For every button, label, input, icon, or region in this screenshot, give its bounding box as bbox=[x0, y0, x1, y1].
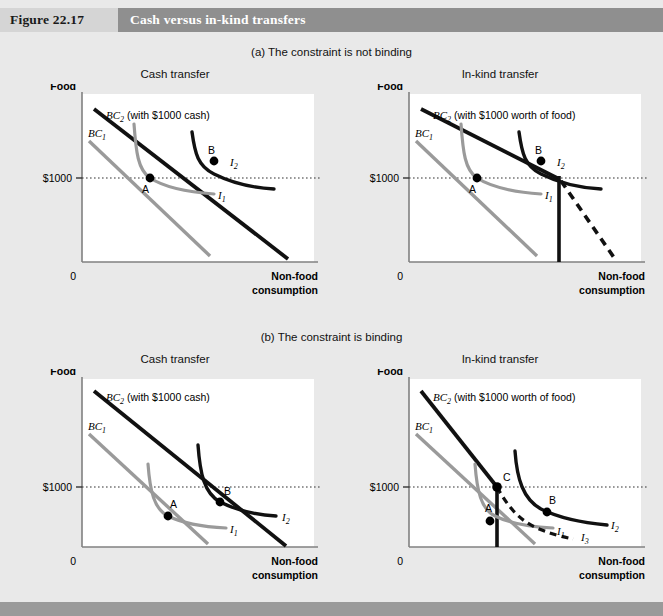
chart-a-cash-transfer: Food $1000 0 Non-food consumption BC1 BC… bbox=[18, 84, 330, 302]
x-axis-label-line2: consumption bbox=[252, 284, 318, 296]
figure-number: Figure 22.17 bbox=[0, 8, 118, 32]
point-b-label: B bbox=[549, 494, 556, 506]
point-b-marker bbox=[216, 498, 225, 507]
point-a-label: A bbox=[469, 183, 476, 195]
figure-footer-bar bbox=[0, 602, 663, 616]
point-b-marker bbox=[210, 157, 219, 166]
y-axis-label: Food bbox=[377, 84, 403, 92]
point-b-label: B bbox=[208, 144, 215, 156]
tick-label-1000: $1000 bbox=[370, 172, 399, 184]
figure-title: Cash versus in-kind transfers bbox=[118, 8, 663, 32]
chart-b-inkind-svg: Food $1000 0 Non-food consumption BC1 BC… bbox=[345, 369, 657, 587]
point-a-marker bbox=[146, 174, 155, 183]
point-c-label: C bbox=[503, 471, 511, 483]
tick-label-1000: $1000 bbox=[370, 481, 399, 493]
figure-header: Figure 22.17 Cash versus in-kind transfe… bbox=[0, 8, 663, 32]
x-axis-label-line1: Non-food bbox=[598, 555, 645, 567]
y-axis-label: Food bbox=[50, 84, 76, 92]
tick-label-1000: $1000 bbox=[43, 172, 72, 184]
point-a-label: A bbox=[485, 502, 492, 514]
panel-a-caption: (a) The constraint is not binding bbox=[0, 46, 663, 58]
point-c-marker bbox=[492, 482, 502, 492]
x-axis-label-line1: Non-food bbox=[598, 270, 645, 282]
point-a-marker bbox=[473, 174, 482, 183]
x-axis-label-line2: consumption bbox=[579, 284, 645, 296]
panel-b-caption: (b) The constraint is binding bbox=[0, 331, 663, 343]
plot-area bbox=[82, 379, 314, 547]
point-a-marker bbox=[486, 517, 495, 526]
point-a-marker bbox=[164, 512, 173, 521]
point-a-label: A bbox=[142, 183, 149, 195]
x-axis-label-line1: Non-food bbox=[271, 555, 318, 567]
x-axis-label-line2: consumption bbox=[579, 569, 645, 581]
origin-label: 0 bbox=[70, 555, 76, 567]
point-b-label: B bbox=[224, 485, 231, 497]
panel-a-right-subtitle: In-kind transfer bbox=[400, 68, 600, 80]
figure-container: Figure 22.17 Cash versus in-kind transfe… bbox=[0, 0, 663, 616]
point-b-label: B bbox=[535, 144, 542, 156]
panel-b-right-subtitle: In-kind transfer bbox=[400, 353, 600, 365]
origin-label: 0 bbox=[397, 270, 403, 282]
point-b-marker bbox=[543, 508, 552, 517]
panel-a-left-subtitle: Cash transfer bbox=[75, 68, 275, 80]
origin-label: 0 bbox=[70, 270, 76, 282]
chart-a-inkind-svg: Food $1000 0 Non-food consumption BC1 BC… bbox=[345, 84, 657, 302]
chart-a-cash-svg: Food $1000 0 Non-food consumption BC1 BC… bbox=[18, 84, 330, 302]
x-axis-label-line1: Non-food bbox=[271, 270, 318, 282]
tick-label-1000: $1000 bbox=[43, 481, 72, 493]
chart-b-cash-transfer: Food $1000 0 Non-food consumption BC1 BC… bbox=[18, 369, 330, 587]
chart-b-inkind-transfer: Food $1000 0 Non-food consumption BC1 BC… bbox=[345, 369, 657, 587]
point-b-marker bbox=[537, 157, 546, 166]
chart-b-cash-svg: Food $1000 0 Non-food consumption BC1 BC… bbox=[18, 369, 330, 587]
chart-a-inkind-transfer: Food $1000 0 Non-food consumption BC1 BC… bbox=[345, 84, 657, 302]
panel-b-left-subtitle: Cash transfer bbox=[75, 353, 275, 365]
origin-label: 0 bbox=[397, 555, 403, 567]
y-axis-label: Food bbox=[50, 369, 76, 377]
point-a-label: A bbox=[170, 498, 177, 510]
x-axis-label-line2: consumption bbox=[252, 569, 318, 581]
y-axis-label: Food bbox=[377, 369, 403, 377]
plot-area bbox=[409, 379, 641, 547]
